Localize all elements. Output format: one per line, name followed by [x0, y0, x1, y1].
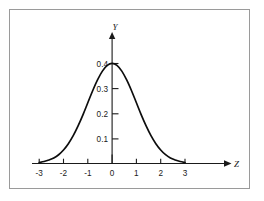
x-tick-label: -3	[36, 169, 44, 178]
y-axis: 0.1 0.2 0.3 0.4 Y	[97, 22, 119, 164]
x-tick-label: 0	[110, 169, 115, 178]
y-tick-label: 0.4	[97, 60, 109, 69]
y-tick-label: 0.3	[97, 85, 109, 94]
x-axis: -3 -2 -1 0 1 2 3 Z	[32, 155, 240, 179]
y-axis-arrow-icon	[109, 32, 115, 39]
x-tick-label: -1	[84, 169, 92, 178]
y-tick-label: 0.1	[97, 135, 109, 144]
x-tick-label: 3	[183, 169, 188, 178]
x-axis-arrow-icon	[224, 160, 232, 166]
figure-root: -3 -2 -1 0 1 2 3 Z 0.1 0.2 0.3 0.4 Y	[0, 0, 264, 201]
x-tick-label: 2	[158, 169, 163, 178]
y-tick-label: 0.2	[97, 110, 109, 119]
x-axis-title: Z	[234, 159, 240, 169]
x-tick-label: -2	[60, 169, 68, 178]
normal-distribution-chart: -3 -2 -1 0 1 2 3 Z 0.1 0.2 0.3 0.4 Y	[0, 0, 264, 201]
y-axis-title: Y	[113, 22, 119, 32]
x-tick-label: 1	[134, 169, 139, 178]
